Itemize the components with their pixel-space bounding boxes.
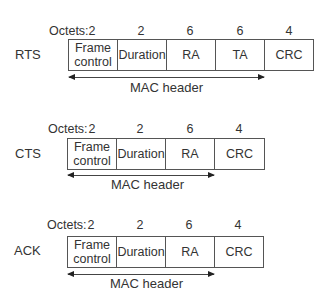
octet-count: 6 [179,218,199,232]
field-ra: RA [166,139,215,169]
octet-count: 6 [180,24,200,38]
mac-header-label: MAC header [111,177,184,192]
octet-count: 4 [228,218,248,232]
field-frame-control: Framecontrol [69,40,118,70]
octet-count: 6 [180,122,200,136]
field-crc: CRC [265,40,313,70]
octet-count: 2 [82,24,102,38]
octet-count: 6 [230,24,250,38]
frame-fields: Framecontrol Duration RA TA CRC [68,39,314,71]
octet-count: 4 [229,122,249,136]
frame-name-ack: ACK [14,243,41,258]
field-duration: Duration [118,40,167,70]
field-duration: Duration [117,139,166,169]
frame-fields: Framecontrol Duration RA CRC [67,236,264,268]
field-crc: CRC [215,237,263,267]
field-ra: RA [167,40,216,70]
octet-count: 2 [131,24,151,38]
frame-fields: Framecontrol Duration RA CRC [67,138,265,170]
octet-count: 2 [81,218,101,232]
mac-header-label: MAC header [130,80,203,95]
field-ta: TA [216,40,265,70]
octet-count: 2 [82,122,102,136]
octet-count: 2 [130,218,150,232]
octet-count: 2 [130,122,150,136]
field-duration: Duration [117,237,166,267]
frame-name-rts: RTS [15,47,41,62]
field-ra: RA [166,237,215,267]
field-frame-control: Framecontrol [68,139,117,169]
octet-count: 4 [279,24,299,38]
frame-name-cts: CTS [15,146,41,161]
mac-header-label: MAC header [110,276,183,291]
field-crc: CRC [215,139,264,169]
field-frame-control: Framecontrol [68,237,117,267]
mac-header-arrow [68,274,214,275]
mac-header-arrow [69,77,264,78]
mac-header-arrow [68,175,214,176]
